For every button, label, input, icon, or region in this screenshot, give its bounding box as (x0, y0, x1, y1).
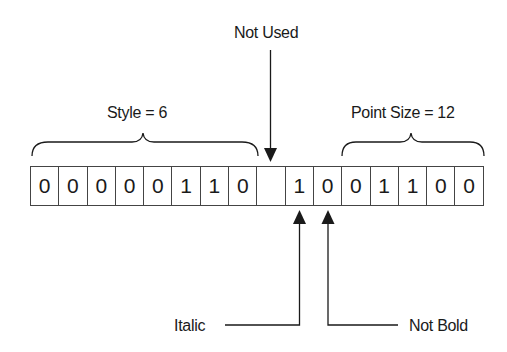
bit-7: 0 (229, 167, 257, 205)
bit-0: 0 (31, 167, 59, 205)
not-bold-label: Not Bold (409, 317, 468, 335)
bit-1: 0 (59, 167, 87, 205)
point-size-label: Point Size = 12 (351, 104, 455, 122)
bit-4: 0 (144, 167, 172, 205)
bit-12: 1 (371, 167, 399, 205)
style-label: Style = 6 (107, 104, 167, 122)
italic-label: Italic (174, 317, 205, 335)
italic-arrow (225, 222, 300, 325)
bit-field-diagram: Not Used Style = 6 Point Size = 12 Itali… (0, 0, 507, 352)
bit-row: 0 0 0 0 0 1 1 0 1 0 0 1 1 0 0 (30, 166, 484, 206)
bit-13: 1 (399, 167, 427, 205)
not-bold-arrowhead-icon (322, 210, 335, 224)
not-used-label: Not Used (234, 24, 298, 42)
bit-3: 0 (116, 167, 144, 205)
bit-14: 0 (427, 167, 455, 205)
italic-arrowhead-icon (293, 210, 306, 224)
not-used-arrowhead-icon (264, 148, 277, 162)
bit-2: 0 (88, 167, 116, 205)
bit-15: 0 (455, 167, 483, 205)
point-size-brace (342, 133, 484, 156)
style-brace (32, 133, 258, 156)
bit-6: 1 (201, 167, 229, 205)
bit-5: 1 (172, 167, 200, 205)
bit-10-bold: 0 (314, 167, 342, 205)
bit-9-italic: 1 (286, 167, 314, 205)
bit-11: 0 (342, 167, 370, 205)
not-bold-arrow (328, 222, 398, 325)
bit-8-not-used (257, 167, 285, 205)
